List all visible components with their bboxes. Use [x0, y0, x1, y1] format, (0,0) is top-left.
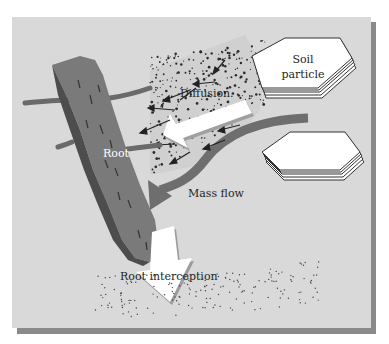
nutrient-uptake-diagram: Soil particle Diffusion. [0, 0, 389, 344]
soil-particle-label-line1: Soil [292, 53, 314, 66]
diffusion-label: Diffusion. [180, 87, 234, 100]
mass-flow-label: Mass flow [188, 187, 245, 200]
root-interception-label: Root interception [120, 270, 218, 283]
soil-particle-label-line2: particle [282, 68, 325, 81]
root-label: Root [103, 147, 130, 160]
